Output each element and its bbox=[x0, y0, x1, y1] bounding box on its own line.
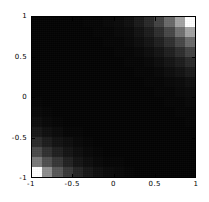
heatmap-cell bbox=[103, 67, 113, 77]
heatmap-cell bbox=[144, 37, 154, 47]
heatmap-cell bbox=[114, 77, 124, 87]
heatmap-cell bbox=[164, 27, 174, 37]
heatmap-cell bbox=[144, 147, 154, 157]
heatmap-cell bbox=[124, 107, 134, 117]
heatmap-cell bbox=[144, 77, 154, 87]
heatmap-cell bbox=[154, 97, 164, 107]
heatmap-cell bbox=[164, 117, 174, 127]
heatmap-cell bbox=[52, 57, 62, 67]
heatmap-cell bbox=[175, 167, 185, 177]
heatmap-cell bbox=[93, 147, 103, 157]
heatmap-cell bbox=[83, 167, 93, 177]
heatmap-cell bbox=[185, 167, 195, 177]
heatmap-cell bbox=[134, 77, 144, 87]
heatmap-cell bbox=[185, 57, 195, 67]
heatmap-cell bbox=[93, 117, 103, 127]
heatmap-cell bbox=[154, 107, 164, 117]
heatmap-cell bbox=[73, 117, 83, 127]
heatmap-cell bbox=[32, 57, 42, 67]
heatmap-cell bbox=[164, 107, 174, 117]
heatmap-cell bbox=[83, 97, 93, 107]
heatmap-cell bbox=[42, 127, 52, 137]
heatmap-cell bbox=[93, 127, 103, 137]
heatmap-cell bbox=[154, 47, 164, 57]
heatmap-cell bbox=[93, 77, 103, 87]
x-axis-tick-label: 0 bbox=[111, 180, 116, 188]
heatmap-cell bbox=[154, 137, 164, 147]
heatmap-cell bbox=[103, 97, 113, 107]
heatmap-cell bbox=[175, 157, 185, 167]
heatmap-cell bbox=[32, 107, 42, 117]
heatmap-cell bbox=[124, 147, 134, 157]
heatmap-cell bbox=[144, 127, 154, 137]
x-axis-tick bbox=[31, 17, 32, 21]
heatmap-cell bbox=[114, 67, 124, 77]
heatmap-cell bbox=[124, 167, 134, 177]
heatmap-grid bbox=[32, 17, 195, 177]
heatmap-cell bbox=[134, 37, 144, 47]
heatmap-cell bbox=[185, 27, 195, 37]
heatmap-cell bbox=[124, 97, 134, 107]
x-axis-tick-label: 0.5 bbox=[149, 180, 161, 188]
heatmap-cell bbox=[124, 57, 134, 67]
heatmap-cell bbox=[114, 27, 124, 37]
heatmap-cell bbox=[52, 47, 62, 57]
heatmap-cell bbox=[52, 97, 62, 107]
heatmap-cell bbox=[93, 47, 103, 57]
heatmap-cell bbox=[134, 27, 144, 37]
y-axis-tick-label: 0.5 bbox=[15, 53, 27, 61]
y-axis-tick bbox=[192, 138, 196, 139]
heatmap-cell bbox=[83, 107, 93, 117]
heatmap-cell bbox=[73, 47, 83, 57]
x-axis-tick bbox=[72, 17, 73, 21]
heatmap-cell bbox=[52, 167, 62, 177]
heatmap-cell bbox=[103, 17, 113, 27]
heatmap-cell bbox=[185, 47, 195, 57]
heatmap-cell bbox=[52, 37, 62, 47]
x-axis-tick bbox=[195, 17, 196, 21]
heatmap-cell bbox=[103, 37, 113, 47]
heatmap-cell bbox=[175, 47, 185, 57]
x-axis-tick bbox=[195, 174, 196, 178]
x-axis-tick bbox=[72, 174, 73, 178]
heatmap-cell bbox=[154, 87, 164, 97]
heatmap-cell bbox=[175, 117, 185, 127]
heatmap-cell bbox=[144, 107, 154, 117]
heatmap-cell bbox=[144, 167, 154, 177]
heatmap-cell bbox=[154, 37, 164, 47]
heatmap-cell bbox=[114, 37, 124, 47]
heatmap-cell bbox=[73, 57, 83, 67]
heatmap-cell bbox=[134, 107, 144, 117]
heatmap-cell bbox=[32, 87, 42, 97]
heatmap-cell bbox=[42, 27, 52, 37]
heatmap-cell bbox=[83, 67, 93, 77]
y-axis-tick bbox=[192, 97, 196, 98]
heatmap-cell bbox=[63, 57, 73, 67]
heatmap-cell bbox=[164, 127, 174, 137]
heatmap-cell bbox=[52, 117, 62, 127]
heatmap-cell bbox=[154, 157, 164, 167]
heatmap-cell bbox=[164, 157, 174, 167]
heatmap-cell bbox=[134, 157, 144, 167]
heatmap-cell bbox=[114, 117, 124, 127]
heatmap-cell bbox=[114, 137, 124, 147]
x-axis-tick bbox=[114, 174, 115, 178]
heatmap-cell bbox=[185, 87, 195, 97]
heatmap-cell bbox=[63, 137, 73, 147]
heatmap-cell bbox=[73, 27, 83, 37]
heatmap-cell bbox=[164, 97, 174, 107]
heatmap-cell bbox=[32, 127, 42, 137]
heatmap-cell bbox=[134, 57, 144, 67]
heatmap-cell bbox=[164, 77, 174, 87]
heatmap-cell bbox=[154, 27, 164, 37]
heatmap-cell bbox=[32, 47, 42, 57]
heatmap-cell bbox=[42, 87, 52, 97]
heatmap-cell bbox=[63, 117, 73, 127]
heatmap-cell bbox=[124, 87, 134, 97]
heatmap-cell bbox=[124, 67, 134, 77]
heatmap-cell bbox=[52, 87, 62, 97]
heatmap-cell bbox=[93, 57, 103, 67]
heatmap-cell bbox=[175, 97, 185, 107]
heatmap-cell bbox=[103, 147, 113, 157]
heatmap-cell bbox=[144, 157, 154, 167]
